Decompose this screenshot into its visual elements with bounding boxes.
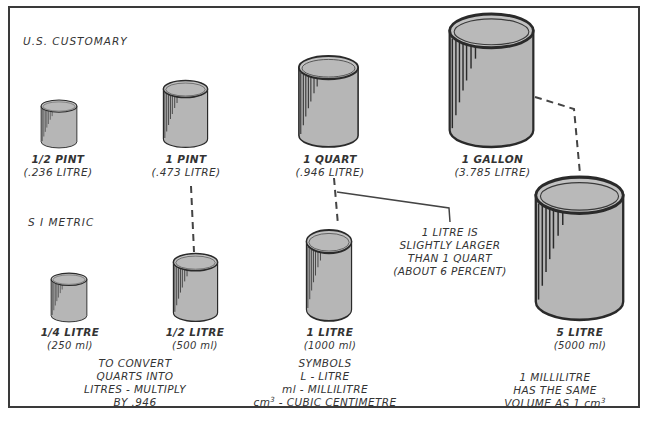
label-half-litre: 1/2 LITRE (500 ml) <box>155 326 235 352</box>
cylinder-quart <box>299 56 358 147</box>
note-millilitre: 1 MILLILITRE HAS THE SAME VOLUME AS 1 cm… <box>495 371 615 410</box>
note-convert: TO CONVERT QUARTS INTO LITRES - MULTIPLY… <box>70 357 200 409</box>
label-half-pint: 1/2 PINT (.236 LITRE) <box>18 153 98 179</box>
label-gallon: 1 GALLON (3.785 LITRE) <box>445 153 540 179</box>
cylinder-quarter-litre <box>51 273 87 322</box>
cylinder-half-litre <box>173 254 217 322</box>
label-pint: 1 PINT (.473 LITRE) <box>146 153 226 179</box>
cylinder-litre <box>306 230 351 321</box>
cylinder-five-litre <box>536 177 623 320</box>
note-litre-vs-quart: 1 LITRE IS SLIGHTLY LARGER THAN 1 QUART … <box>385 226 515 278</box>
note-symbols: SYMBOLS L - LITRE ml - MILLILITRE cm3 - … <box>250 357 400 409</box>
label-quart: 1 QUART (.946 LITRE) <box>285 153 375 179</box>
section-si-metric: S I METRIC <box>28 216 94 228</box>
cylinder-half-pint <box>41 100 77 148</box>
label-quarter-litre: 1/4 LITRE (250 ml) <box>30 326 110 352</box>
cylinder-gallon <box>450 14 534 147</box>
label-litre: 1 LITRE (1000 ml) <box>295 326 365 352</box>
label-five-litre: 5 LITRE (5000 ml) <box>540 326 620 352</box>
section-us-customary: U.S. CUSTOMARY <box>23 35 128 47</box>
cylinder-pint <box>163 81 207 148</box>
